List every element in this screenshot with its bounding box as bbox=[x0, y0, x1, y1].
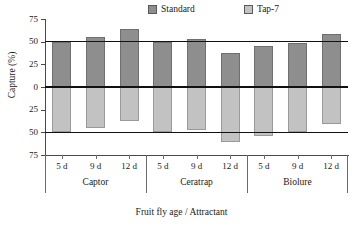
bar-tap7 bbox=[221, 87, 240, 142]
legend-label-tap7: Tap-7 bbox=[257, 4, 279, 14]
x-axis-tick bbox=[298, 155, 299, 159]
bar-standard bbox=[153, 42, 172, 87]
y-tick-label: 75 bbox=[29, 151, 38, 160]
legend-swatch-standard bbox=[148, 5, 157, 14]
bar-tap7 bbox=[322, 87, 341, 124]
bar-tap7 bbox=[52, 87, 71, 132]
x-axis-tick bbox=[264, 155, 265, 159]
bar-tap7 bbox=[254, 87, 273, 136]
legend-entry-tap7: Tap-7 bbox=[244, 4, 279, 14]
bar-tap7 bbox=[153, 87, 172, 132]
x-axis-tick bbox=[197, 155, 198, 159]
plot-area bbox=[45, 19, 348, 155]
bar-standard bbox=[254, 46, 273, 87]
bar-standard bbox=[120, 29, 139, 87]
bar-standard bbox=[288, 43, 307, 87]
y-axis-tick-labels: 7550250255075 bbox=[0, 0, 45, 236]
x-group-label: Biolure bbox=[248, 177, 348, 188]
legend-swatch-tap7 bbox=[244, 5, 253, 14]
x-axis-tick bbox=[230, 155, 231, 159]
x-axis-title: Fruit fly age / Attractant bbox=[0, 207, 363, 217]
y-tick-label: 25 bbox=[29, 105, 38, 114]
category-axis: 5 d9 d12 d5 d9 d12 d5 d9 d12 dCaptorCera… bbox=[45, 155, 348, 207]
reference-line-overlay bbox=[45, 132, 348, 134]
bar-tap7 bbox=[288, 87, 307, 132]
reference-line-overlay bbox=[45, 86, 348, 88]
x-group-label: Captor bbox=[46, 177, 146, 188]
x-axis-tick bbox=[96, 155, 97, 159]
y-tick-label: 0 bbox=[34, 83, 39, 92]
bar-standard bbox=[221, 53, 240, 87]
y-tick-label: 50 bbox=[29, 128, 38, 137]
bar-tap7 bbox=[187, 87, 206, 130]
reference-line-overlay bbox=[45, 41, 348, 43]
bar-tap7 bbox=[120, 87, 139, 121]
x-axis-tick bbox=[62, 155, 63, 159]
chart-legend: Standard Tap-7 bbox=[148, 4, 348, 18]
y-tick-label: 25 bbox=[29, 60, 38, 69]
capture-percentage-bar-chart: Standard Tap-7 Capture (%) 7550250255075… bbox=[0, 0, 363, 236]
x-axis-tick bbox=[129, 155, 130, 159]
legend-entry-standard: Standard bbox=[148, 4, 195, 14]
bar-standard bbox=[86, 37, 105, 87]
bar-tap7 bbox=[86, 87, 105, 128]
y-tick-label: 50 bbox=[29, 37, 38, 46]
x-axis-tick bbox=[331, 155, 332, 159]
x-group-label: Ceratrap bbox=[147, 177, 247, 188]
x-axis-tick bbox=[163, 155, 164, 159]
bar-standard bbox=[187, 39, 206, 87]
bar-standard bbox=[52, 42, 71, 87]
y-tick-label: 75 bbox=[29, 15, 38, 24]
legend-label-standard: Standard bbox=[161, 4, 195, 14]
x-age-label: 12 d bbox=[311, 161, 351, 171]
